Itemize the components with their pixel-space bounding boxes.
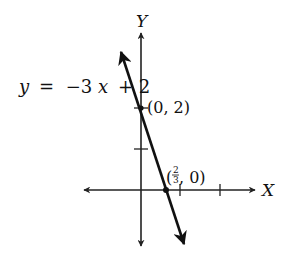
- x-intercept-label-rest: , 0): [179, 168, 206, 187]
- y-axis-label: Y: [136, 11, 149, 31]
- x-intercept-label-open: (: [166, 168, 172, 187]
- equation-eq: =: [39, 76, 54, 97]
- equation-coef: −3: [66, 76, 93, 97]
- equation-lhs: y: [18, 76, 30, 97]
- x-axis-label: X: [260, 180, 275, 200]
- x-intercept-point: [163, 187, 169, 193]
- graph: Y X y = −3 x + 2 (0, 2) ( 2 3 , 0): [0, 0, 293, 262]
- x-intercept-label-num: 2: [173, 165, 179, 175]
- y-intercept-label: (0, 2): [147, 98, 190, 117]
- x-intercept-label: ( 2 3 , 0): [166, 165, 206, 187]
- equation-var: x: [98, 76, 108, 97]
- equation-rest: + 2: [118, 76, 150, 97]
- equation-label: y = −3 x + 2: [18, 76, 150, 97]
- y-intercept-point: [138, 105, 143, 110]
